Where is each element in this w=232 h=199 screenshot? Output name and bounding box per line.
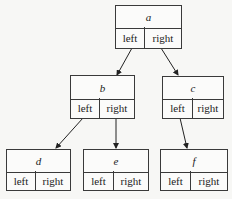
- left-pointer-field: left: [71, 98, 100, 118]
- edge-a-right-to-c: [161, 48, 178, 75]
- node-name: a: [116, 6, 181, 29]
- tree-node-a: a left right: [115, 5, 182, 49]
- left-pointer-field: left: [7, 171, 36, 190]
- right-pointer-field: right: [100, 98, 134, 118]
- right-pointer-field: right: [145, 27, 181, 48]
- edge-c-left-to-f: [180, 118, 187, 148]
- tree-node-c: c left right: [162, 76, 224, 119]
- tree-node-b: b left right: [70, 75, 135, 119]
- tree-node-d: d left right: [6, 149, 71, 191]
- node-name: e: [84, 150, 148, 173]
- left-pointer-field: left: [116, 27, 145, 48]
- tree-node-e: e left right: [83, 149, 149, 191]
- edge-a-left-to-b: [117, 48, 132, 75]
- left-pointer-field: left: [161, 171, 191, 190]
- node-name: f: [161, 150, 227, 173]
- node-name: d: [7, 150, 70, 173]
- right-pointer-field: right: [114, 171, 148, 190]
- right-pointer-field: right: [191, 171, 227, 190]
- right-pointer-field: right: [193, 98, 223, 118]
- edge-b-left-to-d: [56, 118, 83, 148]
- left-pointer-field: left: [84, 171, 114, 190]
- tree-node-f: f left right: [160, 149, 228, 191]
- node-name: b: [71, 76, 134, 100]
- left-pointer-field: left: [163, 98, 193, 118]
- node-name: c: [163, 77, 223, 100]
- right-pointer-field: right: [36, 171, 70, 190]
